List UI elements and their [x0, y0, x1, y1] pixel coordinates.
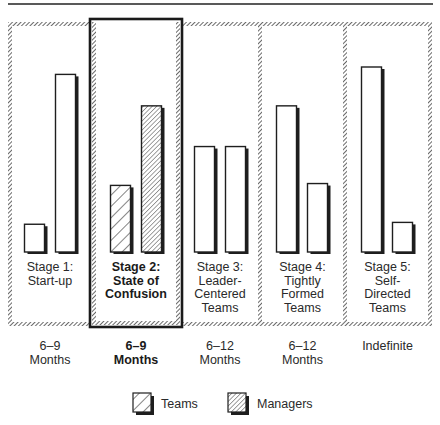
- legend-managers-label: Managers: [257, 397, 313, 411]
- legend-managers-swatch: [228, 393, 249, 415]
- legend-teams-label: Teams: [161, 397, 198, 411]
- legend-teams-swatch: [133, 393, 154, 415]
- legend: [0, 0, 440, 425]
